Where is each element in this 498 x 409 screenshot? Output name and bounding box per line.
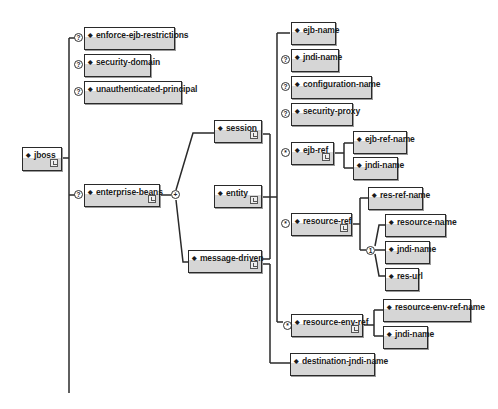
node-security-proxy[interactable]: security-proxy xyxy=(291,103,353,126)
expand-icon[interactable] xyxy=(250,261,258,269)
node-label: entity xyxy=(218,188,248,198)
optional-icon: ? xyxy=(74,60,83,69)
node-configuration-name[interactable]: configuration-name xyxy=(291,76,372,99)
node-security-domain[interactable]: security-domain xyxy=(84,54,151,77)
node-label: jndi-name xyxy=(389,244,436,254)
node-ejb-ref-jndi-name[interactable]: jndi-name xyxy=(353,157,398,180)
node-ejb-name[interactable]: ejb-name xyxy=(291,22,336,45)
choice-compositor-icon: 1 xyxy=(366,246,375,255)
optional-icon: ? xyxy=(281,82,290,91)
node-resource-env-ref-jndi-name[interactable]: jndi-name xyxy=(383,326,428,349)
expand-icon[interactable] xyxy=(322,153,330,161)
optional-icon: ? xyxy=(74,190,83,199)
node-res-url[interactable]: res-url xyxy=(385,268,419,291)
node-enterprise-beans[interactable]: enterprise-beans xyxy=(84,184,160,207)
node-label: ejb-ref-name xyxy=(357,134,415,144)
node-jboss[interactable]: jboss xyxy=(22,147,62,171)
node-label: resource-env-ref-name xyxy=(387,302,485,312)
node-enforce-ejb-restrictions[interactable]: enforce-ejb-restrictions xyxy=(84,27,175,50)
node-resource-ref-jndi-name[interactable]: jndi-name xyxy=(385,241,430,264)
sequence-compositor-icon: + xyxy=(171,190,180,199)
node-res-ref-name[interactable]: res-ref-name xyxy=(368,187,423,210)
zero-or-more-icon: * xyxy=(281,219,290,228)
node-label: resource-name xyxy=(389,217,457,227)
node-resource-name[interactable]: resource-name xyxy=(385,214,446,237)
node-ejb-ref[interactable]: ejb-ref xyxy=(291,142,334,165)
expand-icon[interactable] xyxy=(148,195,156,203)
node-label: res-ref-name xyxy=(372,190,430,200)
zero-or-more-icon: * xyxy=(281,148,290,157)
node-destination-jndi-name[interactable]: destination-jndi-name xyxy=(290,353,375,376)
expand-icon[interactable] xyxy=(250,196,258,204)
optional-icon: ? xyxy=(281,109,290,118)
node-entity[interactable]: entity xyxy=(214,185,262,208)
node-label: security-proxy xyxy=(295,106,360,116)
node-label: jndi-name xyxy=(357,160,404,170)
node-label: destination-jndi-name xyxy=(294,356,388,366)
node-label: configuration-name xyxy=(295,79,380,89)
expand-icon[interactable] xyxy=(340,224,348,232)
optional-icon: ? xyxy=(74,33,83,42)
node-resource-ref[interactable]: resource-ref xyxy=(291,213,352,236)
node-ejb-ref-name[interactable]: ejb-ref-name xyxy=(353,131,407,154)
node-jndi-name[interactable]: jndi-name xyxy=(291,49,339,72)
optional-icon: ? xyxy=(74,87,83,96)
node-label: jndi-name xyxy=(387,329,434,339)
node-label: enforce-ejb-restrictions xyxy=(88,30,188,40)
node-resource-env-ref[interactable]: resource-env-ref xyxy=(291,314,363,337)
node-unauthenticated-principal[interactable]: unauthenticated-principal xyxy=(84,81,182,104)
node-label: res-url xyxy=(389,271,423,281)
node-label: ejb-name xyxy=(295,25,339,35)
expand-icon[interactable] xyxy=(50,159,58,167)
node-label: unauthenticated-principal xyxy=(88,84,197,94)
expand-icon[interactable] xyxy=(250,131,258,139)
optional-icon: ? xyxy=(281,55,290,64)
node-session[interactable]: session xyxy=(214,120,262,143)
expand-icon[interactable] xyxy=(351,325,359,333)
schema-diagram: jboss ? enforce-ejb-restrictions ? secur… xyxy=(0,0,498,409)
node-resource-env-ref-name[interactable]: resource-env-ref-name xyxy=(383,299,471,322)
node-label: security-domain xyxy=(88,57,160,67)
node-message-driven[interactable]: message-driven xyxy=(188,250,262,273)
node-label: jndi-name xyxy=(295,52,342,62)
